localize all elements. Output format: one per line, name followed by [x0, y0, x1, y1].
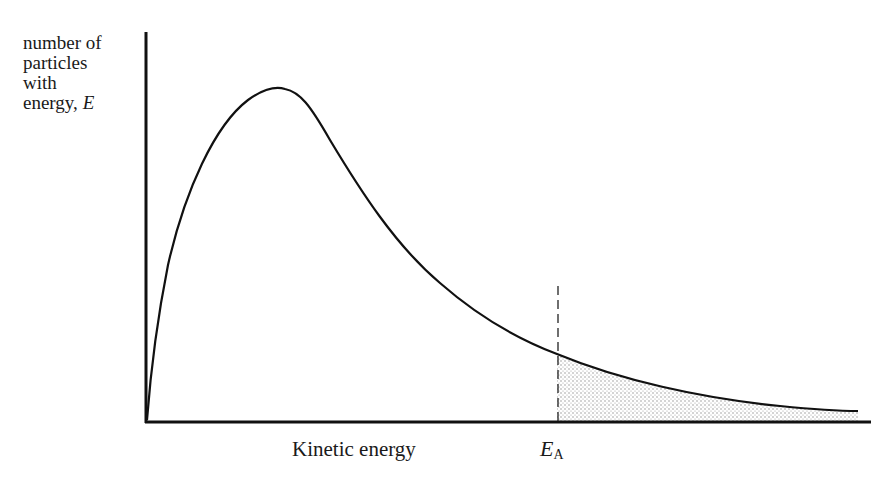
distribution-curve	[147, 88, 858, 420]
shaded-area-above-ea	[557, 354, 858, 422]
distribution-plot	[0, 0, 894, 493]
ea-label: EA	[540, 436, 564, 463]
x-axis-label: Kinetic energy	[292, 437, 416, 462]
